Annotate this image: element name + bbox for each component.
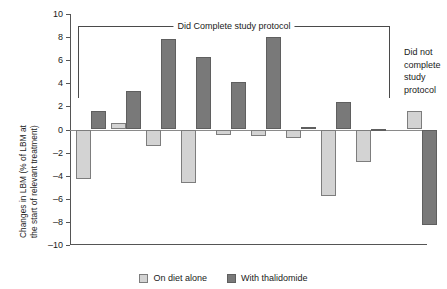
plot-area: 1086420–2–4–6–8–10 Did Complete study pr… <box>70 14 427 245</box>
label-did-not-complete-line2: complete <box>404 59 447 72</box>
y-tick-mark <box>66 14 70 15</box>
y-tick-label: –10 <box>48 241 63 250</box>
y-tick-mark <box>66 199 70 200</box>
bar-on-diet-alone-subject-9 <box>356 130 371 162</box>
bracket-did-complete <box>78 26 390 99</box>
bar-on-diet-alone-subject-8 <box>321 130 336 197</box>
legend-swatch-icon <box>227 274 236 283</box>
y-tick-mark <box>66 83 70 84</box>
y-tick-mark <box>66 60 70 61</box>
label-did-not-complete-line1: Did not <box>404 46 447 59</box>
y-tick-label: 4 <box>58 79 63 88</box>
legend-label: On diet alone <box>153 273 207 283</box>
bar-with-thalidomide-subject-10 <box>422 130 437 226</box>
y-tick-label: –2 <box>53 148 63 157</box>
y-tick-label: –6 <box>53 194 63 203</box>
y-tick-label: 8 <box>58 33 63 42</box>
label-did-not-complete-line4: protocol <box>404 84 447 97</box>
y-tick-mark <box>66 153 70 154</box>
y-tick-mark <box>66 106 70 107</box>
x-axis-line <box>70 244 427 245</box>
bar-on-diet-alone-subject-1 <box>76 130 91 180</box>
bar-on-diet-alone-subject-5 <box>216 130 231 136</box>
chart-legend: On diet aloneWith thalidomide <box>0 273 447 283</box>
bar-on-diet-alone-subject-7 <box>286 130 301 138</box>
bar-with-thalidomide-subject-1 <box>91 111 106 129</box>
legend-label: With thalidomide <box>241 273 308 283</box>
bar-on-diet-alone-subject-6 <box>251 130 266 137</box>
bar-on-diet-alone-subject-3 <box>146 130 161 146</box>
label-did-not-complete-line3: study <box>404 71 447 84</box>
y-tick-mark <box>66 37 70 38</box>
y-tick-label: 10 <box>53 10 63 19</box>
y-axis-title-line1: Changes in LBM (% of LBM at <box>18 125 28 238</box>
y-tick-label: 6 <box>58 56 63 65</box>
legend-item-on-diet-alone[interactable]: On diet alone <box>139 273 207 283</box>
label-did-not-complete: Did not complete study protocol <box>404 46 447 96</box>
bar-on-diet-alone-subject-10 <box>407 111 422 129</box>
bracket-did-complete-label: Did Complete study protocol <box>173 21 294 31</box>
y-axis-title-line2: the start of relevant treatment) <box>29 125 39 238</box>
y-tick-label: 2 <box>58 102 63 111</box>
bar-with-thalidomide-subject-8 <box>336 102 351 130</box>
y-tick-label: –4 <box>53 171 63 180</box>
y-tick-mark <box>66 222 70 223</box>
y-tick-label: 0 <box>58 125 63 134</box>
chart-figure: Changes in LBM (% of LBM at the start of… <box>0 0 447 289</box>
y-tick-label: –8 <box>53 217 63 226</box>
bar-with-thalidomide-subject-9 <box>371 129 386 131</box>
legend-item-with-thalidomide[interactable]: With thalidomide <box>227 273 308 283</box>
y-tick-mark <box>66 176 70 177</box>
y-tick-mark <box>66 245 70 246</box>
legend-swatch-icon <box>139 274 148 283</box>
bar-on-diet-alone-subject-4 <box>181 130 196 183</box>
bar-with-thalidomide-subject-7 <box>301 127 316 129</box>
bar-on-diet-alone-subject-2 <box>111 123 126 130</box>
